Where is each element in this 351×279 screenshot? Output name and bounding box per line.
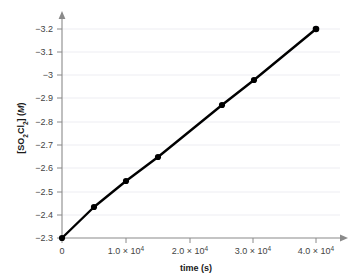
x-axis-title: time (s) [180,263,212,273]
x-tick-label: 0 [59,246,64,256]
y-tick-label: −2.5 [35,187,53,197]
x-tick-label: 3.0 × 104 [235,245,272,257]
data-point [91,204,97,210]
y-tick-label: −2.3 [35,233,53,243]
data-point [123,178,129,184]
y-tick-label: −3.1 [35,47,53,57]
data-point [155,154,161,160]
y-tick-label: −2.4 [35,210,53,220]
x-tick-label: 1.0 × 104 [108,245,145,257]
y-tick-label: −2.9 [35,93,53,103]
data-point [59,235,65,241]
y-tick-label: −3.2 [35,24,53,34]
y-tick-label: −3 [43,70,53,80]
data-point [313,26,320,33]
chart-canvas: −3.2 −3.1 −3 −2.9 −2.8 −2.7 −2.6 −2.5 −2… [0,0,351,279]
y-tick-label: −2.7 [35,140,53,150]
chart-figure: −3.2 −3.1 −3 −2.9 −2.8 −2.7 −2.6 −2.5 −2… [0,0,351,279]
y-tick-label: −2.6 [35,163,53,173]
data-point [219,102,225,108]
y-tick-label: −2.8 [35,117,53,127]
x-tick-label: 2.0 × 104 [172,245,209,257]
data-point [251,77,257,83]
x-tick-label: 4.0 × 104 [298,245,335,257]
